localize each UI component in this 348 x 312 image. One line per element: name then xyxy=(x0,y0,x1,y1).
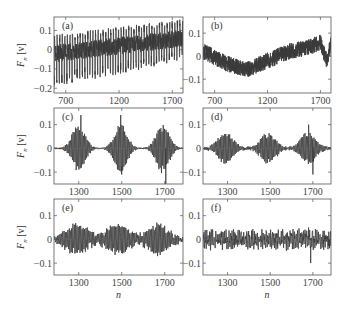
y-tick-label: 0 xyxy=(196,143,201,154)
y-tick-label: 0.1 xyxy=(189,28,202,39)
x-tick-label: 1700 xyxy=(303,186,323,197)
panel-b: 700120017000.10−0.1(b) xyxy=(183,17,331,106)
x-tick-label: 1200 xyxy=(109,95,129,106)
y-tick-label: 0.1 xyxy=(189,210,202,221)
panel-grid: 700120017000.10−0.1−0.2(a)Fn [v]70012001… xyxy=(15,17,331,300)
x-tick-label: 1500 xyxy=(260,186,280,197)
signal-line xyxy=(203,125,331,175)
y-tick-label: 0 xyxy=(47,234,52,245)
signal-line xyxy=(203,35,331,77)
x-tick-label: 1700 xyxy=(303,277,323,288)
y-axis-label: Fn [v] xyxy=(15,134,29,159)
x-tick-label: 1300 xyxy=(69,186,89,197)
y-tick-label: 0 xyxy=(47,143,52,154)
panel-label: (a) xyxy=(62,20,73,32)
panel-f: 1300150017000.10−0.1(f)n xyxy=(183,199,331,300)
x-tick-label: 700 xyxy=(58,95,73,106)
x-tick-label: 1500 xyxy=(112,186,132,197)
panel-label: (b) xyxy=(211,20,223,32)
panel-c: 1300150017000.10−0.1(c)Fn [v] xyxy=(15,108,183,197)
signal-line xyxy=(54,115,183,184)
panel-label: (c) xyxy=(62,111,73,123)
y-tick-label: −0.1 xyxy=(183,258,201,269)
x-tick-label: 700 xyxy=(207,95,222,106)
y-tick-label: 0 xyxy=(196,234,201,245)
y-tick-label: 0.1 xyxy=(189,119,202,130)
panel-d: 1300150017000.10−0.1(d) xyxy=(183,108,331,197)
panel-label: (f) xyxy=(211,202,221,214)
x-tick-label: 1500 xyxy=(112,277,132,288)
x-tick-label: 1300 xyxy=(218,186,238,197)
y-tick-label: 0.1 xyxy=(40,119,53,130)
signal-line xyxy=(203,228,331,264)
x-tick-label: 1300 xyxy=(218,277,238,288)
x-tick-label: 1500 xyxy=(260,277,280,288)
x-tick-label: 1700 xyxy=(162,95,182,106)
signal-line xyxy=(54,223,183,257)
y-tick-label: −0.1 xyxy=(34,63,52,74)
x-tick-label: 1300 xyxy=(69,277,89,288)
y-tick-label: 0 xyxy=(47,44,52,55)
figure: 700120017000.10−0.1−0.2(a)Fn [v]70012001… xyxy=(0,0,348,312)
panel-label: (e) xyxy=(62,202,73,214)
x-tick-label: 1700 xyxy=(310,95,330,106)
y-tick-label: 0 xyxy=(196,51,201,62)
x-axis-label: n xyxy=(116,289,121,300)
panel-label: (d) xyxy=(211,111,223,123)
y-tick-label: 0.1 xyxy=(40,210,53,221)
x-axis-label: n xyxy=(265,289,270,300)
y-axis-label: Fn [v] xyxy=(15,43,29,68)
y-tick-label: −0.1 xyxy=(183,167,201,178)
signal-line xyxy=(54,20,183,87)
y-tick-label: 0.1 xyxy=(40,25,53,36)
panel-e: 1300150017000.10−0.1(e)Fn [v]n xyxy=(15,199,183,300)
y-tick-label: −0.1 xyxy=(34,167,52,178)
y-axis-label: Fn [v] xyxy=(15,225,29,250)
panel-a: 700120017000.10−0.1−0.2(a)Fn [v] xyxy=(15,17,183,106)
x-tick-label: 1700 xyxy=(155,186,175,197)
y-tick-label: −0.1 xyxy=(183,74,201,85)
x-tick-label: 1200 xyxy=(258,95,278,106)
y-tick-label: −0.2 xyxy=(34,83,52,94)
x-tick-label: 1700 xyxy=(155,277,175,288)
y-tick-label: −0.1 xyxy=(34,258,52,269)
